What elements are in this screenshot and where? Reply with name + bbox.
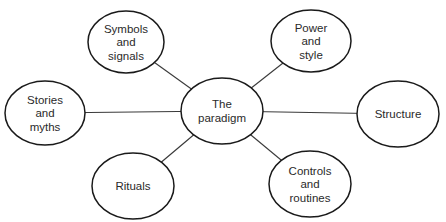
node-label: and [301, 35, 320, 47]
node-structure: Structure [357, 81, 439, 147]
node-label: Power [295, 22, 328, 34]
node-label: The [212, 98, 232, 110]
node-label: Controls [289, 165, 332, 177]
node-symbols: Symbolsandsignals [88, 11, 164, 73]
node-label: myths [30, 121, 61, 133]
node-power: Powerandstyle [271, 10, 351, 72]
node-label: signals [108, 50, 144, 62]
node-label: and [300, 178, 319, 190]
cultural-web-diagram: TheparadigmSymbolsandsignalsPowerandstyl… [0, 0, 446, 222]
nodes-group: TheparadigmSymbolsandsignalsPowerandstyl… [5, 10, 439, 219]
node-label: routines [290, 192, 331, 204]
node-label: style [299, 49, 323, 61]
node-controls: Controlsandroutines [269, 151, 351, 217]
node-label: Rituals [115, 180, 150, 192]
node-label: and [35, 107, 54, 119]
node-label: Stories [27, 94, 63, 106]
node-stories: Storiesandmyths [5, 81, 85, 145]
node-label: Structure [375, 108, 422, 120]
node-label: and [116, 36, 135, 48]
node-label: Symbols [104, 23, 148, 35]
node-paradigm: Theparadigm [181, 78, 263, 144]
node-rituals: Rituals [92, 153, 174, 219]
node-label: paradigm [198, 112, 246, 124]
